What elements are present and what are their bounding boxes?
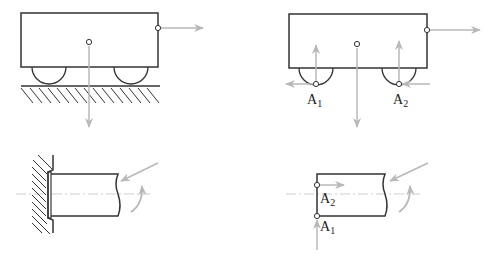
contact-point-a1 — [313, 81, 318, 86]
panel-beam-free-body: A2 A1 — [286, 163, 428, 250]
support-point-a2 — [314, 182, 319, 187]
center-of-mass-point — [354, 41, 359, 46]
ground-hatching — [21, 88, 159, 103]
label-a2: A2 — [320, 191, 335, 208]
panel-cart-on-ground — [21, 13, 203, 127]
wheel-right — [114, 67, 148, 84]
wall-plate — [48, 172, 51, 218]
wheel-left — [32, 67, 66, 84]
center-of-mass-point — [86, 39, 91, 44]
beam-body — [51, 174, 120, 216]
force-application-point — [155, 25, 160, 30]
panel-cart-free-body: A1 A2 — [286, 14, 480, 127]
applied-force-arrow — [121, 163, 158, 181]
cart-body — [289, 14, 427, 68]
applied-force-arrow — [390, 163, 428, 181]
panel-beam-fixed-support — [16, 155, 158, 234]
contact-point-a2 — [396, 81, 401, 86]
label-a1: A1 — [320, 219, 335, 236]
applied-moment-arrow — [399, 186, 410, 212]
force-application-point — [424, 27, 429, 32]
support-point-a1 — [314, 213, 319, 218]
applied-moment-arrow — [131, 186, 142, 212]
label-a2: A2 — [393, 92, 408, 109]
diagram-canvas: A1 A2 — [0, 0, 504, 260]
label-a1: A1 — [307, 92, 322, 109]
